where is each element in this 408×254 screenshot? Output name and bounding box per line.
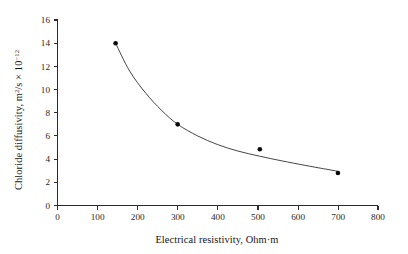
x-tick-label: 300: [171, 212, 185, 222]
x-tick-label: 100: [91, 212, 105, 222]
y-tick-label: 10: [41, 85, 51, 95]
x-tick-label: 500: [251, 212, 265, 222]
x-tick-label: 200: [131, 212, 145, 222]
data-point: [113, 41, 118, 46]
y-tick-label: 2: [45, 177, 50, 187]
x-tick-label: 0: [55, 212, 60, 222]
data-point: [258, 147, 263, 152]
x-tick-label: 800: [371, 212, 385, 222]
chart-figure: 0 2 4 6 8 10 12 14 16 0 100 200 3: [0, 0, 408, 254]
y-tick-label: 4: [45, 154, 50, 164]
data-point: [336, 171, 341, 176]
data-point: [175, 122, 180, 127]
x-tick-label: 600: [291, 212, 305, 222]
chart-background: [0, 0, 408, 254]
scatter-plot-svg: 0 2 4 6 8 10 12 14 16 0 100 200 3: [0, 0, 408, 254]
y-tick-label: 6: [45, 131, 50, 141]
y-axis-title: Chloride diffusivity, m2/s × 10−12: [13, 50, 25, 190]
y-tick-label: 12: [41, 62, 51, 72]
x-tick-label: 400: [211, 212, 225, 222]
y-tick-label: 14: [41, 38, 51, 48]
x-tick-label: 700: [331, 212, 345, 222]
y-tick-label: 8: [45, 108, 50, 118]
x-axis-title: Electrical resistivity, Ohm·m: [155, 234, 278, 245]
y-tick-label: 16: [41, 15, 51, 25]
y-tick-label: 0: [45, 201, 50, 211]
